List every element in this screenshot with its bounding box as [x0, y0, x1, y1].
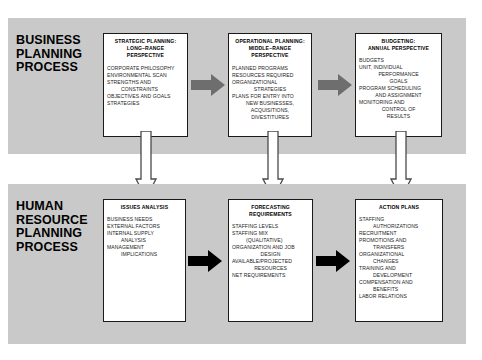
- box-title-line: OPERATIONAL PLANNING:: [232, 38, 308, 45]
- heading-line: PLANNING: [16, 48, 102, 62]
- box-body-line: ACQUISITIONS,: [232, 107, 308, 114]
- heading-line: PLANNING: [16, 227, 108, 241]
- box-body: BUSINESS NEEDS EXTERNAL FACTORS INTERNAL…: [107, 216, 182, 258]
- box-body-line: LABOR RELATIONS: [359, 293, 439, 300]
- box-body-line: PERFORMANCE: [359, 71, 438, 78]
- box-body-line: RESULTS: [359, 113, 438, 120]
- box-title: STRATEGIC PLANNING: LONG–RANGE PERSPECTI…: [107, 38, 184, 60]
- box-body-line: PROGRAM SCHEDULING: [359, 85, 438, 92]
- box-operational-planning: OPERATIONAL PLANNING: MIDDLE–RANGE PERSP…: [228, 33, 312, 137]
- box-body-line: RESOURCES REQUIRED: [232, 72, 308, 79]
- box-body-line: ORGANIZATIONAL: [359, 251, 439, 258]
- box-body-line: COMPENSATION AND: [359, 279, 439, 286]
- box-body-line: AVAILABLE/PROJECTED: [232, 258, 309, 265]
- box-body-line: AND ASSIGNMENT: [359, 92, 438, 99]
- box-body-line: STRATEGIES: [232, 86, 308, 93]
- box-body-line: DESIGN: [232, 251, 309, 258]
- box-body-line: DEVELOPMENT: [359, 272, 439, 279]
- box-title-line: ACTION PLANS: [359, 204, 439, 211]
- box-body-line: ORGANIZATIONAL: [232, 79, 308, 86]
- box-title: FORECASTING REQUIREMENTS: [232, 204, 309, 218]
- box-body-line: TRANSFERS: [359, 244, 439, 251]
- arrow-right-icon: [191, 74, 225, 96]
- arrow-right-icon: [318, 74, 352, 96]
- box-body-line: BUDGETS: [359, 57, 438, 64]
- heading-line: BUSINESS: [16, 34, 102, 48]
- box-body-line: ANALYSIS: [107, 237, 182, 244]
- box-body-line: PLANNED PROGRAMS: [232, 65, 308, 72]
- business-planning-process-heading: BUSINESS PLANNING PROCESS: [16, 34, 102, 75]
- box-body-line: ENVIRONMENTAL SCAN: [107, 72, 184, 79]
- box-body: PLANNED PROGRAMS RESOURCES REQUIRED ORGA…: [232, 65, 308, 121]
- box-title-line: FORECASTING: [232, 204, 309, 211]
- human-resource-planning-process-heading: HUMAN RESOURCE PLANNING PROCESS: [16, 200, 108, 254]
- box-body-line: CONSTRAINTS: [107, 86, 184, 93]
- box-title-line: ANNUAL PERSPECTIVE: [359, 45, 438, 52]
- box-body-line: STAFFING: [359, 216, 439, 223]
- box-body-line: AUTHORIZATIONS: [359, 223, 439, 230]
- box-body-line: PROMOTIONS AND: [359, 237, 439, 244]
- box-body-line: INTERNAL SUPPLY: [107, 230, 182, 237]
- box-body-line: MONITORING AND: [359, 99, 438, 106]
- box-body-line: STAFFING LEVELS: [232, 223, 309, 230]
- box-body-line: STRATEGIES: [107, 100, 184, 107]
- box-title-line: ISSUES ANALYSIS: [107, 204, 182, 211]
- box-body-line: CORPORATE PHILOSOPHY: [107, 65, 184, 72]
- box-body-line: CONTROL OF: [359, 106, 438, 113]
- box-body-line: MANAGEMENT: [107, 244, 182, 251]
- hr-planning-diagram: BUSINESS PLANNING PROCESS STRATEGIC PLAN…: [0, 0, 482, 360]
- box-title-line: BUDGETING:: [359, 38, 438, 45]
- box-body-line: OBJECTIVES AND GOALS: [107, 93, 184, 100]
- box-title: ACTION PLANS: [359, 204, 439, 211]
- box-body-line: RESOURCES: [232, 265, 309, 272]
- box-title-line: STRATEGIC PLANNING:: [107, 38, 184, 45]
- box-body: BUDGETS UNIT, INDIVIDUAL PERFORMANCE GOA…: [359, 57, 438, 120]
- box-body-line: PLANS FOR ENTRY INTO: [232, 93, 308, 100]
- box-forecasting-requirements: FORECASTING REQUIREMENTS STAFFING LEVELS…: [228, 199, 313, 322]
- box-title-line: PERSPECTIVE: [107, 52, 184, 59]
- box-body-line: DIVESTITURES: [232, 114, 308, 121]
- box-body-line: (QUALITATIVE): [232, 237, 309, 244]
- box-title-line: PERSPECTIVE: [232, 52, 308, 59]
- box-strategic-planning: STRATEGIC PLANNING: LONG–RANGE PERSPECTI…: [103, 33, 188, 137]
- box-title: OPERATIONAL PLANNING: MIDDLE–RANGE PERSP…: [232, 38, 308, 60]
- box-budgeting: BUDGETING: ANNUAL PERSPECTIVE BUDGETS UN…: [355, 33, 442, 137]
- box-title-line: MIDDLE–RANGE: [232, 45, 308, 52]
- box-body-line: EXTERNAL FACTORS: [107, 223, 182, 230]
- arrow-right-icon: [188, 250, 222, 272]
- box-body-line: STRENGTHS AND: [107, 79, 184, 86]
- top-cropped-caption: [90, 0, 420, 7]
- box-title-line: LONG–RANGE: [107, 45, 184, 52]
- arrow-right-icon: [316, 250, 350, 272]
- box-body-line: BENEFITS: [359, 286, 439, 293]
- heading-line: RESOURCE: [16, 214, 108, 228]
- box-body-line: STAFFING MIX: [232, 230, 309, 237]
- box-action-plans: ACTION PLANS STAFFING AUTHORIZATIONS REC…: [355, 199, 443, 322]
- box-body-line: NEW BUSINESSES,: [232, 100, 308, 107]
- box-title-line: REQUIREMENTS: [232, 211, 309, 218]
- box-body-line: UNIT, INDIVIDUAL: [359, 64, 438, 71]
- box-body-line: BUSINESS NEEDS: [107, 216, 182, 223]
- box-body-line: ORGANIZATION AND JOB: [232, 244, 309, 251]
- box-body-line: GOALS: [359, 78, 438, 85]
- box-body: STAFFING AUTHORIZATIONS RECRUITMENT PROM…: [359, 216, 439, 300]
- box-title: BUDGETING: ANNUAL PERSPECTIVE: [359, 38, 438, 52]
- box-body: CORPORATE PHILOSOPHY ENVIRONMENTAL SCAN …: [107, 65, 184, 107]
- box-body-line: RECRUITMENT: [359, 230, 439, 237]
- box-issues-analysis: ISSUES ANALYSIS BUSINESS NEEDS EXTERNAL …: [103, 199, 186, 322]
- heading-line: PROCESS: [16, 61, 102, 75]
- box-body-line: CHANGES: [359, 258, 439, 265]
- box-title: ISSUES ANALYSIS: [107, 204, 182, 211]
- box-body-line: TRAINING AND: [359, 265, 439, 272]
- box-body: STAFFING LEVELS STAFFING MIX (QUALITATIV…: [232, 223, 309, 279]
- heading-line: PROCESS: [16, 241, 108, 255]
- box-body-line: IMPLICATIONS: [107, 251, 182, 258]
- heading-line: HUMAN: [16, 200, 108, 214]
- box-body-line: NET REQUIREMENTS: [232, 272, 309, 279]
